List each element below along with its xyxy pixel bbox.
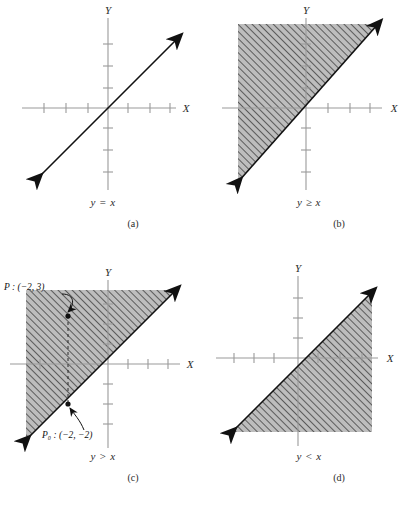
panel-label-c: (c): [0, 472, 206, 483]
y-axis-label-d: Y: [295, 262, 303, 274]
coordinate-plane-a: Y X: [0, 0, 206, 200]
caption-a: y = x: [0, 196, 206, 208]
x-axis-label-d: X: [386, 352, 395, 364]
plot-area-d: Y X: [206, 254, 412, 454]
point-label-p0: P₀ : (−2, −2): [41, 430, 92, 441]
panel-c: P : (−2, 3) P₀ : (−2, −2) Y X y > x (c): [0, 254, 206, 508]
plot-area-c: P : (−2, 3) P₀ : (−2, −2) Y X: [0, 254, 206, 454]
panel-label-a: (a): [0, 218, 206, 229]
x-axis-label-c: X: [186, 358, 195, 370]
panel-label-d: (d): [206, 472, 412, 483]
caption-b: y ≥ x: [206, 196, 412, 208]
y-axis-label-a: Y: [105, 4, 113, 16]
panel-a: Y X y = x (a): [0, 0, 206, 254]
plot-area-a: Y X: [0, 0, 206, 200]
leader-arrow-p0: [70, 408, 84, 430]
point-marker-p: [65, 313, 70, 318]
caption-c: y > x: [0, 450, 206, 462]
panel-label-b: (b): [206, 218, 412, 229]
coordinate-plane-d: Y X: [206, 254, 412, 454]
x-axis-label-a: X: [182, 102, 191, 114]
figure-four-panel-inequality-graphs: Y X y = x (a): [0, 0, 412, 508]
caption-d: y < x: [206, 450, 412, 462]
point-label-p: P : (−2, 3): [3, 282, 45, 293]
x-axis-label-b: X: [390, 102, 399, 114]
coordinate-plane-b: Y X: [206, 0, 412, 200]
panel-d: Y X y < x (d): [206, 254, 412, 508]
coordinate-plane-c: P : (−2, 3) P₀ : (−2, −2) Y X: [0, 254, 206, 454]
y-axis-label-c: Y: [105, 266, 113, 278]
point-marker-p0: [65, 401, 70, 406]
plot-area-b: Y X: [206, 0, 412, 200]
y-axis-label-b: Y: [303, 4, 311, 16]
panel-b: Y X y ≥ x (b): [206, 0, 412, 254]
